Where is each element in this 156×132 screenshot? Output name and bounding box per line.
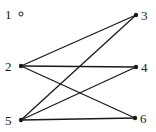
node-6-dot: [133, 116, 137, 120]
node-1-dot: [19, 12, 23, 16]
graph-diagram: 1 2 5 3 4 6: [0, 0, 156, 132]
edge-5-6: [21, 118, 135, 120]
edge-2-3: [21, 15, 136, 66]
node-4-label: 4: [141, 60, 148, 75]
node-5-label: 5: [5, 113, 12, 128]
node-3-label: 3: [141, 8, 148, 23]
node-2-label: 2: [5, 59, 12, 74]
edge-2-6: [21, 66, 135, 118]
node-4-dot: [134, 65, 138, 69]
edge-5-4: [21, 67, 136, 120]
node-5-dot: [19, 118, 23, 122]
edges: [21, 15, 136, 120]
node-3-dot: [134, 13, 138, 17]
node-6-label: 6: [140, 111, 147, 126]
node-2-dot: [19, 64, 23, 68]
node-1-label: 1: [5, 7, 12, 22]
